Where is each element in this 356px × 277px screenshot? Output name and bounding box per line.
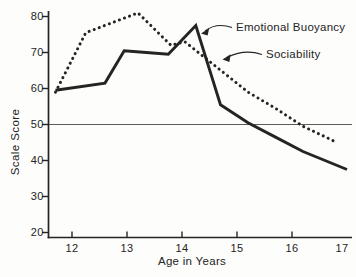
x-tick-label: 17 <box>327 242 356 254</box>
y-tick-label: 40 <box>0 154 44 166</box>
series-label-emotional-buoyancy: Emotional Buoyancy <box>236 21 345 33</box>
emotional-buoyancy-arrowhead-icon <box>201 28 209 35</box>
series-label-sociability: Sociability <box>266 48 321 60</box>
chart-canvas <box>0 0 356 277</box>
y-tick-label: 50 <box>0 118 44 130</box>
sociability-arrowhead-icon <box>223 54 231 62</box>
y-tick-label: 80 <box>0 10 44 22</box>
x-tick-label: 16 <box>277 242 307 254</box>
x-axis-title: Age in Years <box>158 255 226 267</box>
y-tick-label: 70 <box>0 46 44 58</box>
x-tick-label: 13 <box>112 242 142 254</box>
y-tick-label: 30 <box>0 190 44 202</box>
x-tick-label: 15 <box>222 242 252 254</box>
y-tick-label: 60 <box>0 82 44 94</box>
x-tick-label: 14 <box>167 242 197 254</box>
x-tick-label: 12 <box>57 242 87 254</box>
sociability-arrow <box>228 52 262 57</box>
y-tick-label: 20 <box>0 226 44 238</box>
line-chart-figure: Scale Score Age in Years Emotional Buoya… <box>0 0 356 277</box>
